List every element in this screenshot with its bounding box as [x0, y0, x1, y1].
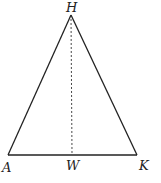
side-HK: [71, 15, 137, 155]
side-HA: [8, 15, 71, 155]
diagram-svg: H A W K: [0, 0, 161, 183]
label-A: A: [1, 160, 11, 175]
altitude-HW: [71, 15, 72, 155]
label-W: W: [66, 158, 81, 173]
label-K: K: [138, 158, 150, 173]
label-H: H: [65, 0, 78, 15]
triangle-diagram: H A W K: [0, 0, 161, 183]
